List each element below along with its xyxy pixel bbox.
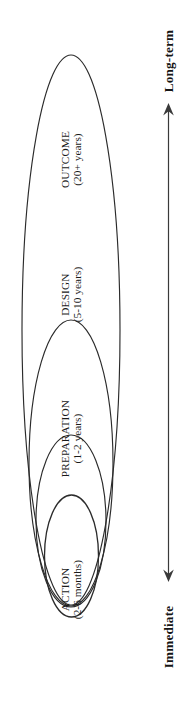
- ellipse-action: [45, 495, 99, 617]
- ellipse-design: [29, 320, 113, 606]
- ellipse-group: [0, 0, 185, 708]
- axis-label-immediate: Immediate: [161, 603, 177, 671]
- time-horizon-arrow: [163, 103, 174, 582]
- axis-label-long-term: Long-term: [161, 27, 177, 95]
- nested-horizon-diagram: OUTCOME (20+ years) DESIGN (5-10 years) …: [0, 0, 185, 708]
- ellipse-outcome: [22, 55, 120, 605]
